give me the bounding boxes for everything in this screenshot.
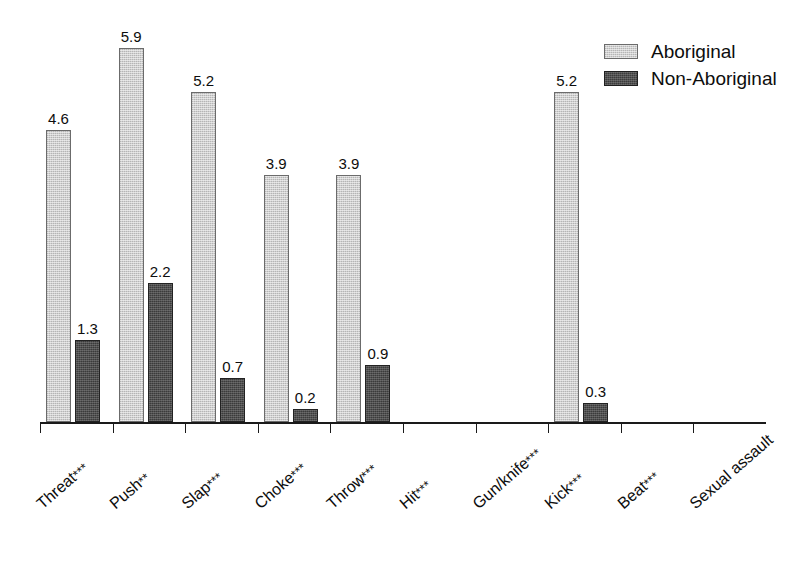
bar-value-label: 5.2 — [188, 73, 220, 88]
x-axis-label: Gun/knife*** — [470, 445, 545, 513]
legend-swatch-aboriginal — [604, 44, 638, 59]
bar-value-label: 0.2 — [289, 390, 321, 405]
bar-value-label: 4.6 — [43, 111, 75, 126]
bar-value-label: 0.9 — [362, 346, 394, 361]
x-axis-tick — [113, 424, 114, 433]
x-axis-tick — [693, 424, 694, 433]
x-axis-tick — [40, 424, 41, 433]
legend-item-non-aboriginal: Non-Aboriginal — [604, 67, 777, 90]
x-axis-label: Push** — [107, 469, 154, 513]
x-axis-label: Kick*** — [542, 470, 588, 513]
legend-item-aboriginal: Aboriginal — [604, 40, 777, 63]
x-axis-label: Choke*** — [252, 459, 310, 513]
x-axis-tick — [476, 424, 477, 433]
bar-value-label: 3.9 — [260, 156, 292, 171]
bar-value-label: 5.9 — [115, 29, 147, 44]
legend-label-aboriginal: Aboriginal — [651, 42, 736, 61]
x-axis-label: Slap*** — [179, 469, 226, 513]
bar-non-aboriginal — [293, 409, 318, 422]
x-axis-tick — [548, 424, 549, 433]
x-axis-tick — [185, 424, 186, 433]
bar-non-aboriginal — [75, 340, 100, 422]
bar-value-label: 3.9 — [333, 156, 365, 171]
x-axis-label: Threat*** — [34, 459, 92, 513]
bar-aboriginal — [46, 130, 71, 422]
x-axis-label: Sexual assault — [687, 432, 776, 512]
x-axis-label: Throw*** — [324, 460, 381, 512]
legend-swatch-non-aboriginal — [604, 71, 638, 86]
bar-non-aboriginal — [365, 365, 390, 422]
legend-label-non-aboriginal: Non-Aboriginal — [651, 69, 777, 88]
x-axis-label: Beat*** — [615, 468, 663, 513]
bar-chart: 4.61.35.92.25.20.73.90.23.90.95.20.3 Thr… — [0, 0, 800, 562]
x-axis-tick — [403, 424, 404, 433]
x-axis-tick — [621, 424, 622, 433]
bar-aboriginal — [264, 175, 289, 422]
bar-aboriginal — [119, 48, 144, 422]
bar-value-label: 2.2 — [144, 264, 176, 279]
x-axis-label: Hit*** — [397, 477, 435, 513]
bar-non-aboriginal — [583, 403, 608, 422]
bar-aboriginal — [191, 92, 216, 422]
x-axis-tick — [258, 424, 259, 433]
legend: Aboriginal Non-Aboriginal — [604, 40, 777, 94]
bar-non-aboriginal — [148, 283, 173, 422]
x-axis-tick — [330, 424, 331, 433]
bar-value-label: 1.3 — [72, 321, 104, 336]
bar-aboriginal — [554, 92, 579, 422]
bar-value-label: 0.3 — [580, 384, 612, 399]
bar-aboriginal — [336, 175, 361, 422]
bar-value-label: 0.7 — [217, 359, 249, 374]
bar-non-aboriginal — [220, 378, 245, 422]
bar-value-label: 5.2 — [551, 73, 583, 88]
